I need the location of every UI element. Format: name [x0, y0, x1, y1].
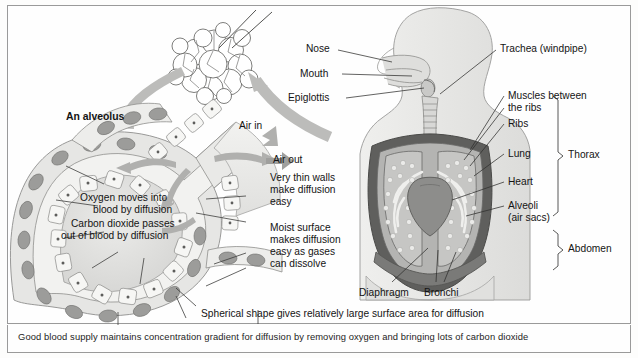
caption-text: Good blood supply maintains concentratio…: [18, 331, 528, 342]
label-diaphragm: Diaphragm: [359, 287, 409, 299]
air-in-label: Air in: [239, 120, 262, 132]
moist-surface-line2: makes diffusion: [270, 234, 341, 246]
label-trachea: Trachea (windpipe): [500, 43, 587, 55]
co2-diffusion-line1: Carbon dioxide passes: [71, 218, 175, 230]
moist-surface-line4: can dissolve: [270, 258, 326, 270]
thin-walls-line1: Very thin walls: [270, 172, 335, 184]
label-ribs: Ribs: [508, 118, 528, 130]
label-nose: Nose: [306, 43, 330, 55]
figure-root: An alveolus Air in Air out Oxygen moves …: [0, 0, 638, 358]
moist-surface-line1: Moist surface: [270, 222, 331, 234]
spherical-shape-note: Spherical shape gives relatively large s…: [201, 308, 484, 320]
thin-walls-line2: make diffusion: [270, 184, 336, 196]
thin-walls-line3: easy: [270, 196, 292, 208]
oxygen-diffusion-line2: blood by diffusion: [93, 204, 172, 216]
oxygen-diffusion-line1: Oxygen moves into: [80, 192, 167, 204]
label-thorax: Thorax: [568, 149, 600, 161]
label-mouth: Mouth: [300, 68, 328, 80]
label-muscles-between-ribs-1: Muscles between: [508, 90, 587, 102]
air-out-label: Air out: [273, 154, 302, 166]
label-bronchi: Bronchi: [424, 287, 459, 299]
label-epiglottis: Epiglottis: [288, 92, 329, 104]
alveolus-title: An alveolus: [66, 111, 124, 123]
abdomen-bracket: [553, 230, 563, 270]
moist-surface-line3: easy as gases: [270, 246, 335, 258]
label-muscles-between-ribs-2: the ribs: [508, 102, 541, 114]
label-alveoli-2: (air sacs): [508, 212, 550, 224]
thorax-bracket: [553, 96, 563, 216]
label-abdomen: Abdomen: [568, 243, 612, 255]
label-lung: Lung: [508, 148, 531, 160]
co2-diffusion-line2: out of blood by diffusion: [61, 230, 168, 242]
caption-band: Good blood supply maintains concentratio…: [7, 325, 631, 353]
label-heart: Heart: [508, 176, 533, 188]
label-alveoli-1: Alveoli: [508, 200, 538, 212]
